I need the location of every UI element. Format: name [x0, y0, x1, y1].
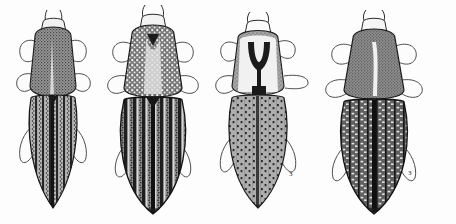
illustration-plate: 3: [0, 0, 456, 224]
beetle-4-drawing: [322, 10, 442, 218]
beetle-2-drawing: [106, 4, 220, 220]
figure-number-3: 3: [289, 171, 293, 178]
beetle-1-drawing: [14, 8, 114, 216]
beetle-figure-3: 3: [212, 12, 322, 216]
beetle-figure-4: 3: [322, 10, 442, 218]
beetle-figure-2: [106, 4, 220, 220]
beetle-figure-1: [14, 8, 114, 216]
beetle-3-drawing: [212, 12, 322, 216]
figure-number-4: 3: [408, 170, 412, 177]
